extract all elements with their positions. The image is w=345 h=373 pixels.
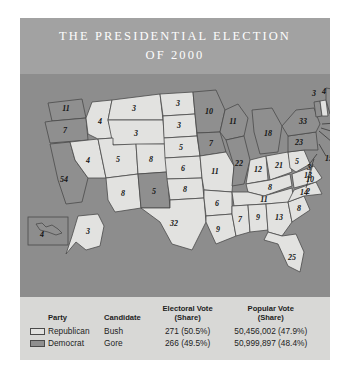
legend-header-party: Party	[48, 304, 104, 325]
table-row: Republican Bush 271 (50.5%) 50,456,002 (…	[30, 325, 320, 337]
leader-line-ri	[321, 128, 330, 132]
election-map-figure: THE PRESIDENTIAL ELECTION OF 2000 .st { …	[20, 18, 330, 360]
us-electoral-map: .st { stroke:#4a4a4a; stroke-width:0.8; …	[20, 74, 330, 295]
state-label-FL: 25	[287, 253, 296, 262]
state-LA	[206, 214, 236, 244]
legend-header-row: Party Candidate Electoral Vote (Share) P…	[30, 304, 320, 325]
legend-header-electoral: Electoral Vote (Share)	[154, 304, 222, 325]
state-label-SD: 3	[176, 121, 181, 130]
leader-line-ma	[322, 123, 330, 124]
legend-header-electoral-line1: Electoral Vote	[163, 304, 213, 313]
state-label-IN: 12	[254, 165, 262, 174]
legend-popular-democrat: 50,999,897 (48.4%)	[221, 337, 320, 349]
state-label-ID: 4	[97, 117, 102, 126]
legend-header-electoral-line2: (Share)	[175, 313, 201, 322]
state-label-CA: 54	[60, 175, 68, 184]
state-label-WI: 11	[229, 117, 237, 126]
state-label-MI: 18	[264, 129, 272, 138]
leader-line-ct	[319, 131, 330, 142]
state-label-NM: 5	[152, 187, 156, 196]
state-label-UT: 5	[116, 155, 120, 164]
legend-electoral-democrat: 266 (49.5%)	[154, 337, 222, 349]
legend-swatch-democrat-cell	[30, 337, 48, 349]
page-title-line1: THE PRESIDENTIAL ELECTION	[20, 27, 330, 46]
state-label-IL: 22	[234, 159, 243, 168]
state-label-VT: 3	[311, 89, 316, 98]
table-row: Democrat Gore 266 (49.5%) 50,999,897 (48…	[30, 337, 320, 349]
legend-party-republican: Republican	[48, 325, 104, 337]
state-label-OK: 8	[183, 185, 187, 194]
page-title-line2: OF 2000	[20, 46, 330, 65]
legend-candidate-bush: Bush	[104, 325, 154, 337]
state-label-NY: 33	[298, 117, 307, 126]
state-label-WV: 5	[295, 157, 299, 166]
state-label-OH: 21	[274, 161, 283, 170]
legend-header-popular: Popular Vote (Share)	[221, 304, 320, 325]
state-label-NJ: 15	[325, 154, 330, 163]
state-label-NH: 4	[321, 87, 326, 96]
republican-color-swatch	[30, 328, 45, 335]
state-label-DE: 3	[306, 163, 311, 172]
state-label-HI: 4	[39, 230, 44, 239]
legend-header-swatch	[30, 304, 48, 325]
state-label-AL: 9	[256, 213, 260, 222]
legend-header-candidate: Candidate	[104, 304, 154, 325]
state-label-WA: 11	[62, 104, 70, 113]
state-label-KY: 8	[268, 183, 272, 192]
legend-table: Party Candidate Electoral Vote (Share) P…	[30, 304, 320, 349]
state-label-MT: 3	[131, 104, 136, 113]
state-label-WY: 3	[133, 129, 138, 138]
state-label-GA: 13	[275, 213, 283, 222]
state-label-MN: 10	[205, 107, 213, 116]
figure-header: THE PRESIDENTIAL ELECTION OF 2000	[20, 18, 330, 74]
state-label-AK: 3	[85, 227, 90, 236]
state-label-PA: 23	[294, 138, 303, 147]
state-label-DC: 2	[305, 187, 310, 196]
legend-header-popular-line2: (Share)	[258, 313, 284, 322]
legend-electoral-republican: 271 (50.5%)	[154, 325, 222, 337]
state-label-MO: 11	[211, 167, 219, 176]
legend-party-democrat: Democrat	[48, 337, 104, 349]
state-label-SC: 8	[297, 204, 301, 213]
state-label-ND: 3	[175, 99, 180, 108]
legend-candidate-gore: Gore	[104, 337, 154, 349]
state-label-AR: 6	[215, 199, 219, 208]
state-label-AZ: 8	[121, 189, 125, 198]
state-FL	[264, 232, 304, 272]
state-label-TN: 11	[260, 195, 268, 204]
state-label-TX: 32	[169, 219, 178, 228]
state-label-KS: 6	[181, 164, 185, 173]
state-label-CO: 8	[149, 155, 153, 164]
us-map-svg: .st { stroke:#4a4a4a; stroke-width:0.8; …	[20, 74, 330, 295]
state-label-MD: 10	[306, 175, 314, 184]
legend-swatch-republican-cell	[30, 325, 48, 337]
state-AK	[66, 214, 104, 254]
state-label-NE: 5	[179, 143, 183, 152]
legend-header-popular-line1: Popular Vote	[248, 304, 294, 313]
democrat-color-swatch	[30, 340, 45, 347]
state-label-NV: 4	[85, 156, 90, 165]
legend-popular-republican: 50,456,002 (47.9%)	[221, 325, 320, 337]
state-label-LA: 9	[216, 225, 220, 234]
legend-panel: Party Candidate Electoral Vote (Share) P…	[20, 295, 330, 360]
